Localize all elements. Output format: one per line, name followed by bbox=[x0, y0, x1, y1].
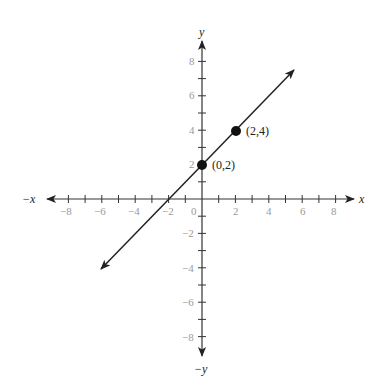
origin-label: 0 bbox=[191, 205, 197, 217]
x-tick-label: 6 bbox=[300, 205, 306, 217]
x-tick-label: −8 bbox=[60, 205, 72, 217]
y-tick-label: 4 bbox=[189, 124, 195, 136]
point-label-0-2: (0,2) bbox=[212, 158, 235, 172]
x-axis-label: x bbox=[358, 192, 365, 206]
y-axis-label: y bbox=[198, 25, 205, 39]
x-tick-label: 2 bbox=[233, 205, 239, 217]
x-tick-label: −4 bbox=[128, 205, 140, 217]
y-tick-label: −6 bbox=[182, 296, 194, 308]
x-tick-labels: −8 −6 −4 −2 0 2 4 6 8 bbox=[60, 205, 337, 217]
point-2-4 bbox=[231, 126, 241, 136]
x-axis bbox=[47, 195, 354, 203]
coordinate-plane: x −x y −y −8 −6 −4 −2 0 2 4 6 8 8 6 4 2 … bbox=[0, 0, 387, 392]
neg-x-axis-label: −x bbox=[22, 192, 36, 206]
y-tick-label: 8 bbox=[189, 55, 195, 67]
x-tick-label: 8 bbox=[331, 205, 337, 217]
line-y-equals-x-plus-2-lower bbox=[101, 165, 202, 269]
y-tick-label: 6 bbox=[189, 89, 195, 101]
line-y-equals-x-plus-2-upper bbox=[202, 70, 294, 165]
point-0-2 bbox=[197, 160, 207, 170]
x-tick-label: −2 bbox=[162, 205, 174, 217]
x-tick-label: 4 bbox=[266, 205, 272, 217]
y-tick-label: −4 bbox=[182, 262, 194, 274]
x-tick-label: −6 bbox=[94, 205, 106, 217]
y-tick-label: 2 bbox=[189, 158, 195, 170]
point-label-2-4: (2,4) bbox=[246, 124, 269, 138]
neg-y-axis-label: −y bbox=[194, 362, 208, 376]
y-tick-label: −8 bbox=[182, 331, 194, 343]
y-tick-label: −2 bbox=[182, 227, 194, 239]
